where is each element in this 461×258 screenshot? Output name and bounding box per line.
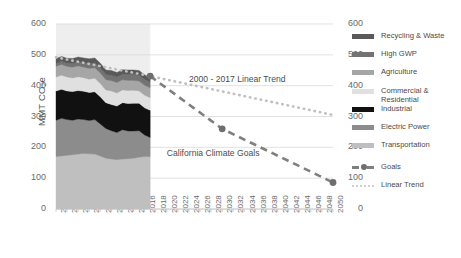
legend-swatch xyxy=(352,89,374,94)
legend-swatch xyxy=(352,125,374,130)
legend-item[interactable]: Goals xyxy=(352,162,460,173)
legend-item[interactable]: Transportation xyxy=(352,140,460,151)
legend-swatch xyxy=(352,70,374,75)
chart-container: MMT CO₂e 6005004003002001000 60050040030… xyxy=(0,0,461,258)
legend-item[interactable]: Agriculture xyxy=(352,67,460,78)
goals-line xyxy=(150,76,333,182)
annotation-label: California Climate Goals xyxy=(167,148,260,158)
legend-swatch xyxy=(352,52,374,57)
legend-dotted-line-icon xyxy=(352,180,374,191)
legend-label: Industrial xyxy=(381,104,412,113)
legend-item[interactable]: Industrial xyxy=(352,104,460,115)
area-series-transportation xyxy=(56,154,150,210)
legend-label: Commercial & Residential xyxy=(381,86,429,104)
legend-label: Goals xyxy=(381,162,401,171)
legend-label: Recycling & Waste xyxy=(381,31,444,40)
legend-item[interactable]: Commercial & Residential xyxy=(352,86,460,97)
legend-label: Electric Power xyxy=(381,122,430,131)
legend-label: Transportation xyxy=(381,140,430,149)
legend-label: Agriculture xyxy=(381,67,417,76)
goals-data-point xyxy=(330,179,337,186)
legend-item[interactable]: High GWP xyxy=(352,49,460,60)
legend-label: Linear Trend xyxy=(381,180,424,189)
legend-label: High GWP xyxy=(381,49,417,58)
legend-item[interactable]: Electric Power xyxy=(352,122,460,133)
legend-swatch xyxy=(352,107,374,112)
chart-legend: Recycling & WasteHigh GWPAgricultureComm… xyxy=(352,31,460,199)
legend-dashed-line-icon xyxy=(352,162,374,173)
legend-swatch xyxy=(352,143,374,148)
legend-item[interactable]: Linear Trend xyxy=(352,180,460,191)
goals-data-point xyxy=(147,73,154,80)
legend-item[interactable]: Recycling & Waste xyxy=(352,31,460,42)
legend-swatch xyxy=(352,34,374,39)
goals-data-point xyxy=(219,125,226,132)
annotation-label: 2000 - 2017 Linear Trend xyxy=(189,74,286,84)
